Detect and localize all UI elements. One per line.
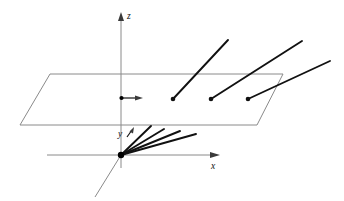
- y-axis-line: [95, 155, 121, 197]
- field-vector-2: [209, 41, 302, 101]
- field-vector-2-basepoint: [209, 97, 214, 102]
- field-vector-group: [171, 40, 330, 101]
- field-vector-3-basepoint: [246, 97, 251, 102]
- figure-canvas: z y x: [0, 0, 344, 201]
- x-axis-arrowhead: [210, 152, 220, 158]
- x-axis-label: x: [210, 161, 216, 171]
- z-axis-label: z: [126, 11, 131, 21]
- z-axis: [118, 12, 124, 168]
- field-vector-1-shaft: [173, 40, 228, 99]
- y-axis-label: y: [117, 129, 123, 139]
- plane-tangent-arrow: [119, 96, 143, 101]
- field-vector-1-basepoint: [171, 97, 176, 102]
- origin-point: [118, 152, 124, 158]
- field-vector-3: [246, 61, 330, 101]
- x-axis: [47, 152, 220, 158]
- plane-tangent-arrowhead: [135, 96, 143, 101]
- z-axis-arrowhead: [118, 12, 124, 21]
- field-vector-2-shaft: [211, 41, 302, 99]
- figure-root: z y x: [0, 0, 344, 201]
- field-vector-1: [171, 40, 228, 101]
- plane-outline: [20, 74, 283, 125]
- origin-ray-3: [121, 131, 180, 155]
- y-axis: [95, 155, 121, 197]
- y-label-arrow: [127, 127, 134, 137]
- plane-tangent-arrow-dot: [119, 96, 123, 100]
- plane-parallelogram: [20, 74, 283, 125]
